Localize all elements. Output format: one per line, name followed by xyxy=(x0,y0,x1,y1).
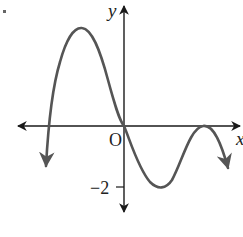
y-tick-label: −2 xyxy=(90,178,109,198)
y-axis-label: y xyxy=(106,0,117,21)
origin-label: O xyxy=(109,130,122,150)
bullet-dot xyxy=(3,10,6,13)
x-axis-label: x xyxy=(235,128,243,149)
function-curve xyxy=(46,28,228,187)
function-graph: y x O −2 xyxy=(0,0,243,237)
